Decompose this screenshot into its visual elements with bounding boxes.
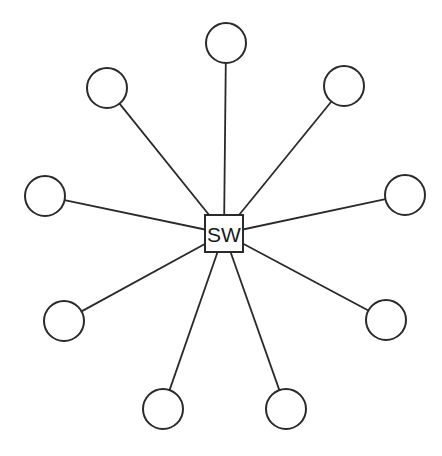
node-lower-left [44, 301, 84, 341]
switch-label: SW [207, 223, 241, 246]
node-bottom-left [143, 389, 183, 429]
link-top [224, 63, 226, 234]
link-bottom-left [170, 234, 224, 391]
link-lower-left [82, 234, 224, 312]
star-topology-diagram: SW [0, 0, 442, 456]
node-left [25, 176, 65, 216]
node-top-left [87, 68, 127, 108]
node-top-right [324, 66, 364, 106]
link-lower-right [224, 234, 368, 311]
node-bottom-right [266, 389, 306, 429]
node-right [385, 175, 425, 215]
switch-hub: SW [205, 215, 243, 252]
link-bottom-right [224, 234, 279, 391]
node-lower-right [366, 300, 406, 340]
node-top [206, 23, 246, 63]
